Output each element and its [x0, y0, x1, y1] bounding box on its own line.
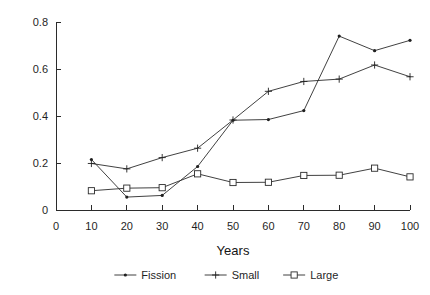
legend-item-fission[interactable]: Fission [114, 269, 176, 281]
series-layer [88, 35, 414, 199]
x-tick-label: 40 [191, 220, 203, 232]
legend-label: Small [232, 269, 260, 281]
marker-dot-icon [267, 118, 270, 121]
marker-square-icon [407, 174, 413, 180]
line-chart: 00.20.40.60.8 0102030405060708090100 Yea… [0, 0, 430, 295]
series-large [88, 165, 413, 194]
marker-dot-icon [302, 109, 305, 112]
marker-square-icon [372, 165, 378, 171]
x-tick-label: 100 [401, 220, 419, 232]
series-line-small [91, 65, 410, 169]
marker-dot-icon [408, 39, 411, 42]
marker-plus-icon [159, 154, 166, 161]
marker-plus-icon [406, 73, 413, 80]
marker-square-icon [291, 272, 297, 278]
marker-dot-icon [125, 195, 128, 198]
series-line-large [91, 168, 410, 191]
legend-label: Fission [141, 269, 176, 281]
marker-dot-icon [161, 194, 164, 197]
y-tick-label: 0.8 [33, 16, 48, 28]
x-tick-label: 50 [227, 220, 239, 232]
x-axis-title: Years [217, 243, 250, 258]
series-small [88, 61, 414, 172]
marker-square-icon [336, 172, 342, 178]
y-tick-label: 0 [42, 204, 48, 216]
marker-plus-icon [371, 61, 378, 68]
marker-plus-icon [123, 165, 130, 172]
chart-container: 00.20.40.60.8 0102030405060708090100 Yea… [0, 0, 430, 295]
y-tick-label: 0.6 [33, 63, 48, 75]
legend-label: Large [310, 269, 338, 281]
x-tick-label: 70 [298, 220, 310, 232]
marker-dot-icon [373, 49, 376, 52]
x-tick-label: 0 [53, 220, 59, 232]
marker-square-icon [301, 172, 307, 178]
y-tick-label: 0.4 [33, 110, 48, 122]
legend-item-large[interactable]: Large [283, 269, 338, 281]
marker-dot-icon [338, 35, 341, 38]
marker-plus-icon [212, 271, 219, 278]
marker-dot-icon [124, 273, 127, 276]
chart-legend: FissionSmallLarge [114, 269, 338, 281]
series-line-fission [91, 36, 410, 197]
x-tick-label: 10 [85, 220, 97, 232]
y-tick-label: 0.2 [33, 157, 48, 169]
y-axis-ticks: 00.20.40.60.8 [33, 16, 61, 216]
x-tick-label: 60 [262, 220, 274, 232]
marker-square-icon [88, 188, 94, 194]
marker-square-icon [124, 185, 130, 191]
x-axis-ticks: 0102030405060708090100 [53, 205, 419, 232]
marker-plus-icon [336, 76, 343, 83]
x-tick-label: 90 [368, 220, 380, 232]
marker-square-icon [195, 171, 201, 177]
x-tick-label: 20 [121, 220, 133, 232]
marker-square-icon [159, 185, 165, 191]
x-tick-label: 80 [333, 220, 345, 232]
marker-dot-icon [196, 165, 199, 168]
legend-item-small[interactable]: Small [205, 269, 260, 281]
marker-square-icon [265, 179, 271, 185]
marker-plus-icon [300, 78, 307, 85]
series-fission [90, 35, 412, 199]
x-tick-label: 30 [156, 220, 168, 232]
marker-plus-icon [88, 160, 95, 167]
marker-square-icon [230, 179, 236, 185]
